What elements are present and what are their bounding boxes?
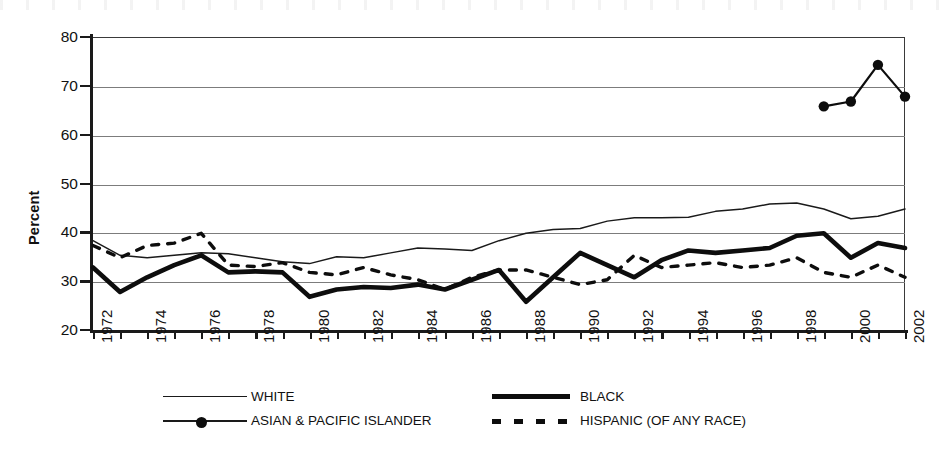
y-axis-tick-label: 40 [44, 224, 78, 240]
series-black [93, 233, 905, 301]
x-axis-tick-label: 1980 [316, 310, 331, 343]
y-axis-tick-label: 50 [44, 176, 78, 192]
x-axis-tick [905, 330, 907, 339]
legend-label-asian-pacific-islander: ASIAN & PACIFIC ISLANDER [251, 414, 432, 428]
x-axis-tick [824, 330, 826, 339]
legend-label-hispanic: HISPANIC (OF ANY RACE) [580, 414, 746, 428]
x-axis-tick [174, 330, 176, 339]
x-axis-tick [445, 330, 447, 339]
x-axis-tick-label: 2002 [911, 310, 926, 343]
x-axis-tick [743, 330, 745, 339]
x-axis-tick [580, 330, 582, 339]
legend-item-white: WHITE [163, 386, 295, 408]
x-axis-tick-label: 1984 [424, 310, 439, 343]
y-axis-tick-label: 60 [44, 127, 78, 143]
y-axis-tick-label: 80 [44, 29, 78, 45]
legend-label-black: BLACK [580, 390, 624, 404]
x-axis-tick-label: 1994 [695, 310, 710, 343]
series-asian-pacific-islander [819, 60, 911, 112]
x-axis-tick [797, 330, 799, 339]
legend-item-hispanic: HISPANIC (OF ANY RACE) [492, 410, 746, 432]
thick-line-swatch-icon [492, 390, 576, 404]
x-axis-tick [607, 330, 609, 339]
x-axis-tick-label: 2000 [857, 310, 872, 343]
y-axis-tick-label: 70 [44, 78, 78, 94]
scan-artifact-strip [0, 0, 946, 10]
y-axis-tick [80, 280, 92, 282]
thin-line-swatch-icon [163, 390, 247, 404]
x-axis-tick [472, 330, 474, 339]
chart-legend: WHITE BLACK ASIAN & PACIFIC ISLANDER HIS… [0, 386, 946, 446]
x-axis-tick [337, 330, 339, 339]
x-axis-tick-label: 1976 [207, 310, 222, 343]
x-axis-tick-label: 1986 [478, 310, 493, 343]
y-axis-tick [80, 85, 92, 87]
x-axis-tick [770, 330, 772, 339]
x-axis-tick [661, 330, 663, 339]
y-axis-tick [80, 231, 92, 233]
x-axis-tick-label: 1990 [586, 310, 601, 343]
x-axis-tick [147, 330, 149, 339]
x-axis-tick-label: 1996 [749, 310, 764, 343]
x-axis-tick [878, 330, 880, 339]
x-axis-tick [120, 330, 122, 339]
chart-container: Percent 80706050403020 19721974197619781… [0, 0, 946, 460]
y-axis-tick [80, 183, 92, 185]
x-axis-tick [364, 330, 366, 339]
x-axis-tick [418, 330, 420, 339]
x-axis-tick [634, 330, 636, 339]
x-axis-tick [689, 330, 691, 339]
series-white [93, 203, 905, 264]
x-axis-tick-label: 1972 [99, 310, 114, 343]
x-axis-tick [93, 330, 95, 339]
legend-label-white: WHITE [251, 390, 295, 404]
y-axis-tick-label: 20 [44, 322, 78, 338]
x-axis-tick-label: 1992 [640, 310, 655, 343]
x-axis-tick-label: 1974 [153, 310, 168, 343]
x-axis-tick-label: 1978 [261, 310, 276, 343]
legend-item-asian-pacific-islander: ASIAN & PACIFIC ISLANDER [163, 410, 432, 432]
x-axis-tick-label: 1982 [370, 310, 385, 343]
x-axis-tick [228, 330, 230, 339]
x-axis-tick [391, 330, 393, 339]
x-axis-tick [526, 330, 528, 339]
y-axis-tick [80, 134, 92, 136]
series-layer [93, 38, 905, 331]
plot-area [93, 37, 905, 330]
x-axis-tick [201, 330, 203, 339]
x-axis-tick [553, 330, 555, 339]
x-axis-tick [499, 330, 501, 339]
x-axis-tick [310, 330, 312, 339]
x-axis-tick [283, 330, 285, 339]
y-axis-tick [80, 36, 92, 38]
x-axis-tick-label: 1988 [532, 310, 547, 343]
x-axis-tick [851, 330, 853, 339]
x-axis-tick [716, 330, 718, 339]
x-axis-tick-label: 1998 [803, 310, 818, 343]
x-axis-tick [255, 330, 257, 339]
y-axis-tick [80, 329, 92, 331]
y-axis-tick-label: 30 [44, 273, 78, 289]
dashed-line-swatch-icon [492, 414, 576, 428]
legend-item-black: BLACK [492, 386, 624, 408]
dot-line-swatch-icon [163, 414, 247, 428]
